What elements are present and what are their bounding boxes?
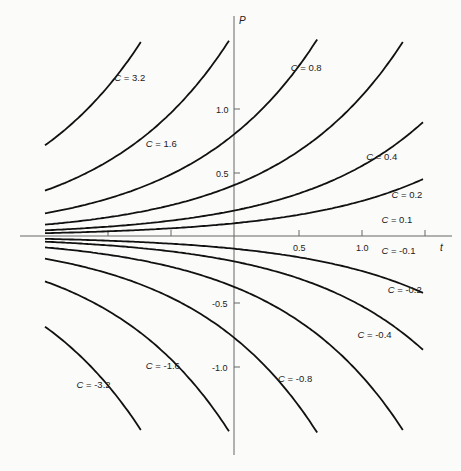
- curve-c-3-2: [45, 42, 141, 145]
- curve-c-m0-8: [45, 259, 317, 433]
- curve-c-0-8: [45, 39, 317, 213]
- t-tick-label-10: 1.0: [356, 243, 369, 253]
- curve-label: C = -0.4: [358, 329, 392, 340]
- curve-label: C = -0.8: [278, 373, 312, 384]
- curve-label: C = -1.6: [146, 360, 180, 371]
- curve-label: C = -3.2: [77, 379, 111, 390]
- curve-label: C = 1.6: [146, 138, 177, 149]
- curve-label: C = 0.2: [392, 189, 423, 200]
- curve-c-m1-6: [45, 281, 229, 431]
- p-tick-label-10: 1.0: [216, 105, 229, 115]
- p-tick-label-05: 0.5: [216, 169, 229, 179]
- curve-label: C = -0.2: [388, 284, 422, 295]
- t-axis-label: t: [440, 242, 444, 253]
- curve-c-1-6: [45, 41, 229, 191]
- p-tick-label-m10: -1.0: [212, 363, 228, 373]
- curve-label: C = 0.8: [291, 62, 322, 73]
- p-tick-label-m05: -0.5: [212, 299, 228, 309]
- curve-c-0-4: [45, 42, 403, 225]
- curve-label: C = 0.1: [381, 214, 412, 225]
- direction-field-chart: 0.5 1.0 1.0 0.5 -0.5 -1.0 t P C = 3.2C =…: [0, 0, 461, 471]
- curve-labels: C = 3.2C = 1.6C = 0.8C = 0.4C = 0.2C = 0…: [77, 62, 423, 391]
- curve-label: C = -0.1: [381, 245, 415, 256]
- curve-c-m0-4: [45, 247, 403, 430]
- p-axis-label: P: [239, 15, 246, 26]
- curve-label: C = 0.4: [366, 151, 397, 162]
- t-tick-label-05: 0.5: [293, 243, 306, 253]
- curve-c-m3-2: [45, 327, 141, 430]
- chart-svg: 0.5 1.0 1.0 0.5 -0.5 -1.0 t P C = 3.2C =…: [0, 0, 461, 471]
- curve-label: C = 3.2: [114, 72, 145, 83]
